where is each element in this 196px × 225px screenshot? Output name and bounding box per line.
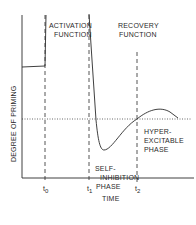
t1-label: t1 bbox=[87, 185, 93, 194]
hyper-excitable-line1: HYPER- bbox=[144, 128, 172, 135]
self-inhibition-line3: PHASE bbox=[96, 183, 121, 190]
activation-label-line2: FUNCTION bbox=[54, 31, 92, 38]
x-axis-label: TIME bbox=[102, 195, 120, 202]
recovery-label-line1: RECOVERY bbox=[118, 22, 159, 29]
t2-label: t2 bbox=[135, 185, 141, 194]
activation-label-line1: ACTIVATION bbox=[49, 22, 92, 29]
recovery-label-line2: FUNCTION bbox=[119, 31, 157, 38]
hyper-excitable-line2: EXCITABLE bbox=[144, 137, 184, 144]
self-inhibition-line2: INHIBITION bbox=[100, 174, 139, 181]
t0-label: t0 bbox=[43, 185, 49, 194]
hyper-excitable-line3: PHASE bbox=[144, 146, 169, 153]
self-inhibition-line1: SELF- bbox=[95, 165, 116, 172]
priming-diagram: ACTIVATION FUNCTION RECOVERY FUNCTION SE… bbox=[0, 0, 196, 225]
y-axis-label: DEGREE OF PRIMING bbox=[10, 85, 17, 162]
